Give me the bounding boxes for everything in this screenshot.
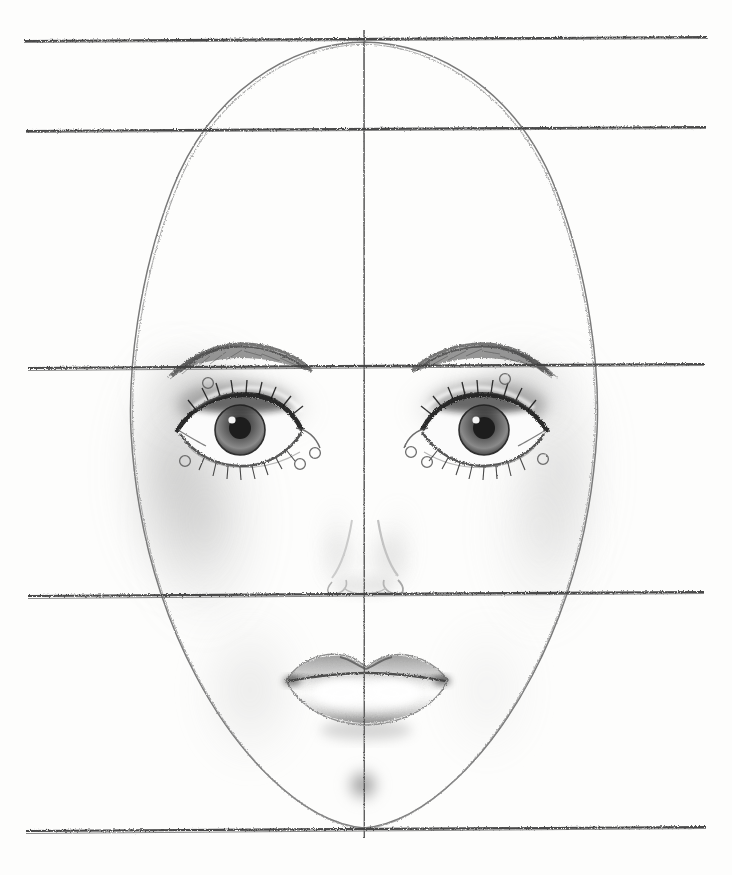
chin-shading-dot	[343, 765, 383, 805]
drawing-canvas: Facial Proportion Study graphite pencil …	[0, 0, 732, 875]
face-proportion-drawing	[0, 0, 732, 875]
